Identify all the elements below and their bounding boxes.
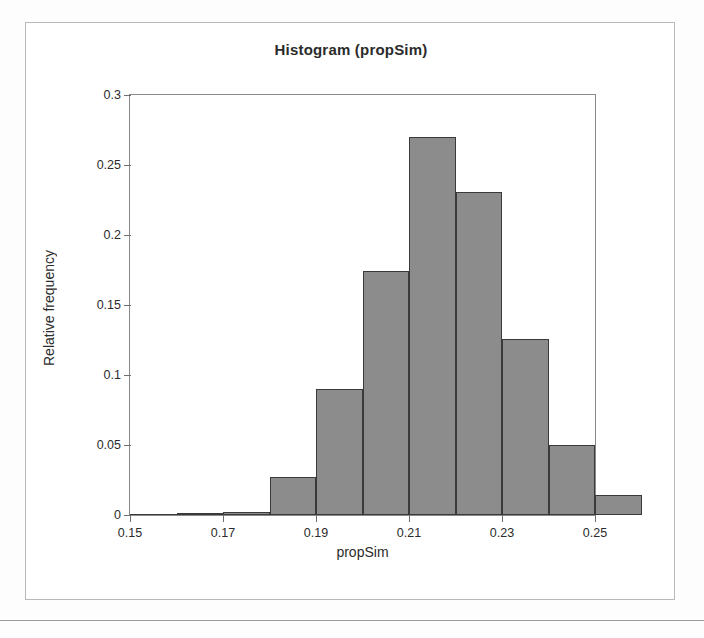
x-axis-tick [130, 515, 131, 522]
y-axis-tick-label: 0.2 [104, 228, 121, 242]
x-axis-tick [316, 515, 317, 522]
y-axis-tick [124, 165, 131, 166]
page-horizontal-rule [0, 620, 704, 621]
y-axis-tick [124, 375, 131, 376]
y-axis-tick-label: 0.1 [104, 368, 121, 382]
histogram-bar [223, 512, 270, 515]
x-axis-tick [595, 515, 596, 522]
y-axis-tick-label: 0.05 [97, 438, 121, 452]
y-axis-tick [124, 235, 131, 236]
x-axis-tick-label: 0.15 [118, 526, 142, 540]
x-axis-tick [502, 515, 503, 522]
y-axis-title: Relative frequency [41, 183, 65, 433]
chart-frame: Histogram (propSim) 00.050.10.150.20.250… [25, 22, 675, 600]
histogram-bar [130, 514, 177, 515]
y-axis-tick-label: 0.3 [104, 88, 121, 102]
histogram-bar [549, 445, 596, 515]
x-axis-tick [409, 515, 410, 522]
histogram-bar [177, 513, 224, 515]
x-axis-title: propSim [129, 544, 596, 560]
x-axis-tick-label: 0.23 [490, 526, 514, 540]
y-axis-tick [124, 95, 131, 96]
histogram-bar [595, 495, 642, 515]
histogram-bars [130, 95, 595, 515]
x-axis-tick-label: 0.19 [304, 526, 328, 540]
histogram-bar [502, 339, 549, 515]
x-axis-tick-label: 0.21 [397, 526, 421, 540]
y-axis-tick-label: 0.15 [97, 298, 121, 312]
x-axis-tick [223, 515, 224, 522]
x-axis-tick-label: 0.17 [211, 526, 235, 540]
chart-title: Histogram (propSim) [26, 41, 676, 58]
y-axis-tick-label: 0.25 [97, 158, 121, 172]
x-axis-tick-label: 0.25 [583, 526, 607, 540]
histogram-bar [270, 477, 317, 515]
histogram-bar [409, 137, 456, 515]
plot-area: 00.050.10.150.20.250.3 0.150.170.190.210… [129, 94, 596, 516]
histogram-bar [316, 389, 363, 515]
y-axis-tick [124, 305, 131, 306]
histogram-bar [456, 192, 503, 515]
y-axis-tick [124, 445, 131, 446]
histogram-bar [363, 271, 410, 515]
y-axis-tick-label: 0 [114, 508, 121, 522]
